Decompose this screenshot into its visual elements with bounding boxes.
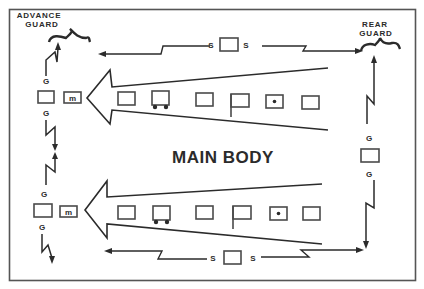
advance-guard-label-line2: GUARD bbox=[25, 20, 58, 29]
march-formation-diagram: ADVANCE GUARD REAR GUARD S S G m G G m bbox=[0, 0, 424, 289]
right-guard-g2: G bbox=[366, 170, 372, 179]
lower-column-units bbox=[118, 206, 320, 229]
bottom-security-s-left: S bbox=[210, 254, 216, 263]
top-security-s-right: S bbox=[243, 41, 249, 50]
flag-icon bbox=[233, 206, 251, 229]
top-security-unit bbox=[220, 38, 238, 51]
vehicle-box-icon bbox=[118, 92, 135, 105]
vehicle-box-icon bbox=[196, 93, 213, 106]
vehicle-box-icon bbox=[196, 206, 213, 219]
left-lower-guard-group: m G bbox=[34, 204, 77, 264]
right-rear-guard-group: G G bbox=[361, 55, 379, 249]
left-upper-guard-g1: G bbox=[43, 77, 49, 86]
left-lower-guard-g1: G bbox=[41, 190, 47, 199]
left-lower-guard-unit bbox=[34, 204, 52, 217]
top-security-s-left: S bbox=[208, 41, 214, 50]
rear-guard-label-line1: REAR bbox=[362, 20, 388, 29]
left-lower-guard-g2: G bbox=[39, 223, 45, 232]
diagram-frame bbox=[10, 10, 416, 281]
advance-guard-brace-icon bbox=[49, 29, 90, 42]
rear-guard-label-line2: GUARD bbox=[359, 29, 392, 38]
flag-icon bbox=[231, 94, 249, 117]
bottom-security-unit bbox=[224, 251, 241, 264]
top-security-link: S S bbox=[98, 38, 363, 57]
wheeled-vehicle-icon bbox=[153, 206, 170, 224]
vehicle-box-icon bbox=[303, 207, 320, 220]
command-post-icon bbox=[270, 207, 287, 220]
hq-m-symbol-icon: m bbox=[69, 94, 76, 103]
left-upper-guard-g2: G bbox=[43, 109, 49, 118]
advance-guard-label-line1: ADVANCE bbox=[17, 11, 62, 20]
command-post-icon bbox=[266, 95, 283, 108]
rear-guard-brace-icon bbox=[361, 38, 400, 51]
vehicle-box-icon bbox=[302, 96, 319, 109]
right-guard-g1: G bbox=[366, 134, 372, 143]
vehicle-box-icon bbox=[118, 206, 135, 219]
right-guard-unit bbox=[361, 149, 379, 162]
left-upper-guard-unit bbox=[38, 91, 54, 103]
main-body-title: MAIN BODY bbox=[172, 148, 274, 167]
bottom-security-link: S S bbox=[104, 247, 364, 264]
left-middle-guard-link: G bbox=[41, 120, 58, 199]
left-upper-guard-link: G m G bbox=[38, 42, 81, 118]
wheeled-vehicle-icon bbox=[152, 91, 169, 109]
hq-m-symbol-icon: m bbox=[65, 208, 72, 217]
bottom-security-s-right: S bbox=[250, 254, 256, 263]
